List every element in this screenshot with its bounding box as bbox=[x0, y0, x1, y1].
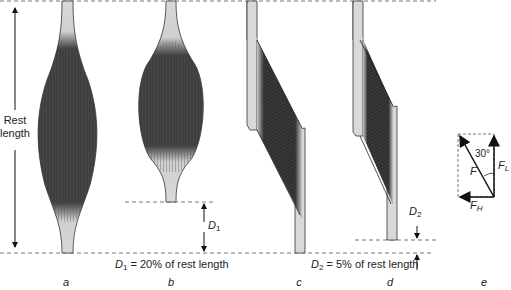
rest-label-line2: length bbox=[0, 127, 30, 140]
angle-arc bbox=[484, 173, 494, 176]
d2-sub: 2 bbox=[417, 210, 421, 219]
d2-caption: D2 = 5% of rest length bbox=[311, 258, 419, 272]
f-vector bbox=[460, 136, 494, 197]
angle-label: 30° bbox=[475, 148, 490, 159]
muscle-a bbox=[38, 1, 97, 253]
f-label: F bbox=[470, 165, 477, 177]
panel-label-c: c bbox=[296, 276, 302, 288]
f-h-sub: H bbox=[477, 204, 483, 213]
d1-sub: 1 bbox=[216, 224, 220, 233]
rest-label-line1: Rest bbox=[0, 114, 30, 127]
f-h-label: FH bbox=[470, 199, 483, 213]
muscle-b bbox=[139, 1, 204, 202]
d1-caption: D1 = 20% of rest length bbox=[115, 258, 229, 272]
panel-label-b: b bbox=[168, 276, 174, 288]
d2-caption-text: = 5% of rest length bbox=[323, 258, 418, 270]
rest-length-label: Rest length bbox=[0, 114, 30, 140]
d1-caption-letter: D bbox=[115, 258, 123, 270]
d2-letter: D bbox=[409, 205, 417, 217]
panel-label-d: d bbox=[387, 276, 393, 288]
panel-label-e: e bbox=[481, 276, 487, 288]
d1-symbol: D1 bbox=[208, 219, 220, 233]
muscle-d bbox=[353, 1, 397, 240]
d1-letter: D bbox=[208, 219, 216, 231]
muscle-c bbox=[247, 1, 305, 253]
diagram-canvas bbox=[0, 0, 511, 290]
panel-label-a: a bbox=[63, 276, 69, 288]
f-l-label: FL bbox=[498, 159, 509, 173]
d1-caption-text: = 20% of rest length bbox=[127, 258, 228, 270]
f-l-sub: L bbox=[505, 164, 509, 173]
d2-symbol: D2 bbox=[409, 205, 421, 219]
f-h-letter: F bbox=[470, 199, 477, 211]
f-l-letter: F bbox=[498, 159, 505, 171]
d2-caption-letter: D bbox=[311, 258, 319, 270]
